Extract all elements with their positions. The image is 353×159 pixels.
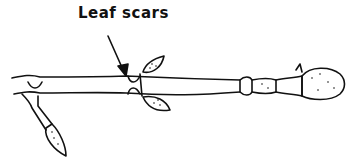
arrow-icon bbox=[108, 36, 128, 76]
leaf-scar-left bbox=[28, 82, 42, 88]
bud-upper bbox=[143, 56, 164, 72]
bud-lower bbox=[143, 97, 170, 111]
terminal-bud bbox=[302, 68, 345, 99]
bud-side bbox=[46, 124, 66, 156]
twig-illustration bbox=[0, 0, 353, 159]
